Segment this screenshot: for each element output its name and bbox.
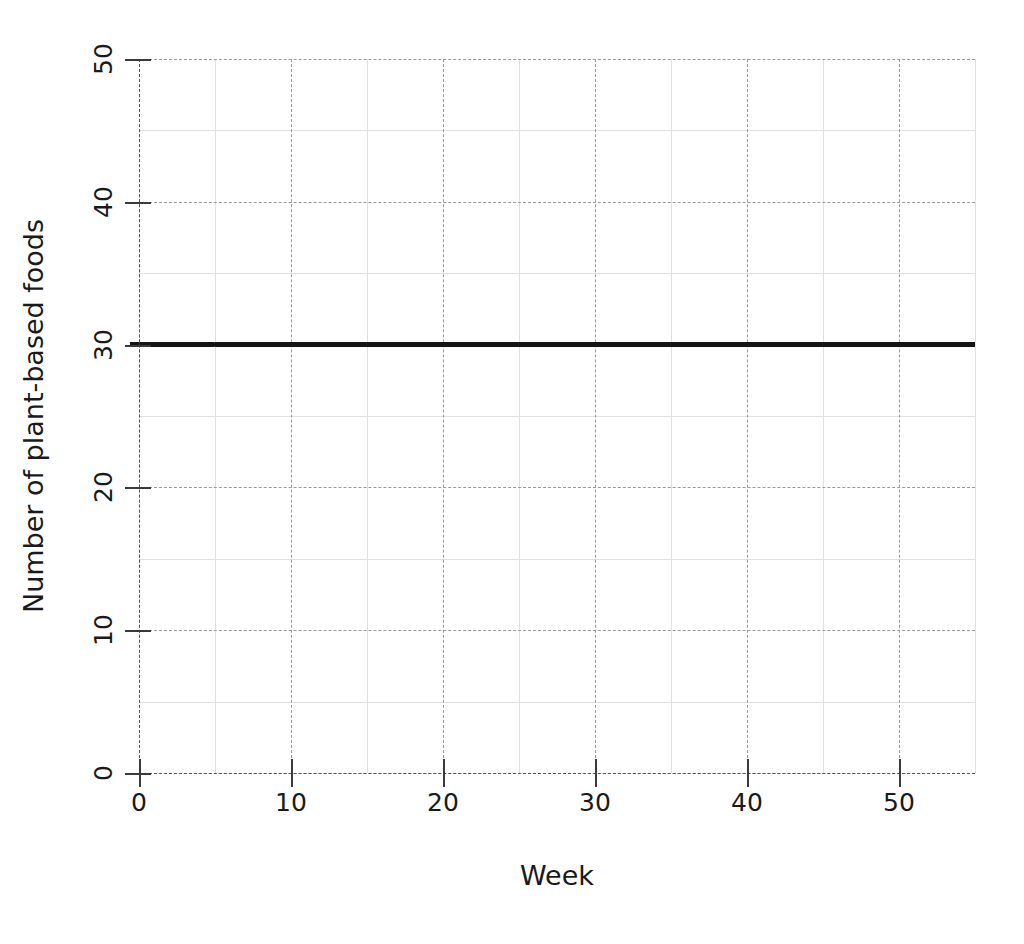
gridline-x-major: [291, 59, 292, 773]
series-line-segment: [671, 342, 747, 347]
y-axis-tick: [125, 59, 151, 61]
y-axis-tick-label-text: 20: [91, 471, 116, 503]
gridline-y-major: [139, 202, 975, 203]
gridline-x-major: [747, 59, 748, 773]
gridline-y-minor: [139, 416, 975, 417]
gridline-y-major: [139, 487, 975, 488]
gridline-y-major: [139, 59, 975, 60]
x-axis-tick: [291, 759, 293, 787]
gridline-x-major: [443, 59, 444, 773]
gridline-x-minor: [519, 59, 520, 773]
x-axis-tick: [139, 759, 141, 787]
x-axis-tick-label: 40: [731, 790, 763, 815]
gridline-y-minor: [139, 273, 975, 274]
y-axis-title: Number of plant-based foods: [8, 59, 58, 773]
y-axis-title-text: Number of plant-based foods: [20, 219, 47, 613]
y-axis-line: [139, 59, 140, 773]
gridline-x-minor: [823, 59, 824, 773]
series-line-segment: [823, 342, 899, 347]
x-axis-tick-label: 10: [275, 790, 307, 815]
series-line-segment: [291, 342, 367, 347]
x-axis-tick: [443, 759, 445, 787]
chart-container: 0102030405001020304050 Number of plant-b…: [0, 0, 1024, 944]
plot-area: [139, 59, 975, 773]
y-axis-tick-label-text: 40: [91, 186, 116, 218]
y-axis-tick: [125, 487, 151, 489]
x-axis-title-text: Week: [520, 862, 594, 889]
x-axis-tick-label: 20: [427, 790, 459, 815]
y-axis-tick-label-text: 30: [91, 329, 116, 361]
y-axis-tick: [125, 630, 151, 632]
y-axis-tick: [125, 773, 151, 775]
x-axis-tick-label: 50: [883, 790, 915, 815]
gridline-x-minor: [367, 59, 368, 773]
gridline-y-minor: [139, 130, 975, 131]
x-axis-tick-label: 0: [131, 790, 147, 815]
gridline-x-minor: [671, 59, 672, 773]
gridline-x-minor: [215, 59, 216, 773]
y-axis-tick: [125, 345, 151, 347]
gridline-x-major: [595, 59, 596, 773]
y-axis-tick-label-text: 10: [91, 614, 116, 646]
y-axis-tick-label-text: 50: [91, 43, 116, 75]
gridline-y-minor: [139, 559, 975, 560]
x-axis-tick: [595, 759, 597, 787]
x-axis-tick: [747, 759, 749, 787]
gridline-x-minor: [975, 59, 976, 773]
series-line-segment: [747, 342, 823, 347]
y-axis-tick: [125, 202, 151, 204]
gridline-y-minor: [139, 702, 975, 703]
y-axis-tick-label-text: 0: [91, 765, 116, 781]
series-line-segment: [215, 342, 291, 347]
x-axis-tick-label: 30: [579, 790, 611, 815]
gridline-y-major: [139, 630, 975, 631]
x-axis-tick: [899, 759, 901, 787]
series-line-segment: [443, 342, 519, 347]
series-line-segment: [519, 342, 595, 347]
gridline-x-major: [899, 59, 900, 773]
x-axis-line: [139, 773, 975, 774]
series-line-segment: [899, 342, 975, 347]
series-line-segment: [367, 342, 443, 347]
series-line-segment: [595, 342, 671, 347]
